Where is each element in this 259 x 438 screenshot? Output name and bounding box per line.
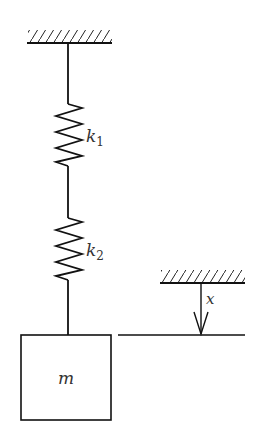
spring-mass-diagram: k1 k2 m x — [0, 0, 259, 438]
spring-k2 — [56, 218, 82, 280]
top-support — [27, 30, 112, 43]
label-mass: m — [58, 368, 74, 388]
label-k1: k1 — [86, 126, 104, 149]
reference-support-hatching — [161, 270, 245, 283]
top-support-hatching — [28, 30, 112, 43]
spring-k1 — [56, 104, 82, 166]
label-k2: k2 — [86, 240, 104, 263]
reference-support — [160, 270, 245, 283]
label-x: x — [206, 290, 215, 308]
